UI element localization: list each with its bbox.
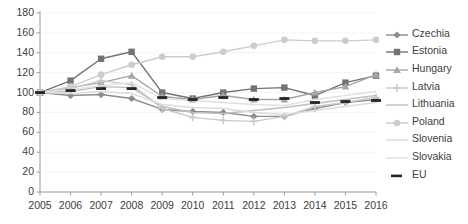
y-tick-label: 140	[16, 46, 34, 58]
legend-swatch-slovenia-icon	[386, 132, 408, 144]
legend-item-eu[interactable]: EU	[386, 165, 468, 183]
legend-label: Hungary	[408, 62, 452, 74]
y-tick-label: 80	[22, 105, 34, 117]
legend-swatch-slovakia-icon	[386, 150, 408, 162]
line-chart: 020406080100120140160180 200520062007200…	[0, 0, 468, 224]
legend-item-slovenia[interactable]: Slovenia	[386, 130, 468, 148]
legend-label: Lithuania	[408, 97, 455, 109]
series-estonia	[37, 49, 379, 102]
legend-item-lithuania[interactable]: Lithuania	[386, 94, 468, 112]
y-tick-label: 180	[16, 6, 34, 18]
legend-label: Czechia	[408, 27, 450, 39]
legend-label: Slovakia	[408, 150, 452, 162]
legend-item-estonia[interactable]: Estonia	[386, 42, 468, 60]
legend-label: Poland	[408, 115, 445, 127]
legend-swatch-hungary-icon	[386, 62, 408, 74]
legend-label: Estonia	[408, 44, 447, 56]
legend-item-latvia[interactable]: Latvia	[386, 77, 468, 95]
legend-swatch-lithuania-icon	[386, 97, 408, 109]
legend-label: Slovenia	[408, 132, 452, 144]
legend-swatch-eu-icon	[386, 168, 408, 180]
y-tick-label: 60	[22, 125, 34, 137]
legend-swatch-czechia-icon	[386, 27, 408, 39]
chart-legend: CzechiaEstoniaHungaryLatviaLithuaniaPola…	[386, 24, 468, 182]
chart-canvas	[0, 0, 384, 224]
legend-item-slovakia[interactable]: Slovakia	[386, 147, 468, 165]
legend-swatch-latvia-icon	[386, 80, 408, 92]
legend-label: EU	[408, 168, 427, 180]
legend-swatch-estonia-icon	[386, 44, 408, 56]
y-tick-label: 0	[28, 185, 34, 197]
y-tick-label: 160	[16, 26, 34, 38]
y-tick-label: 40	[22, 145, 34, 157]
y-tick-label: 20	[22, 165, 34, 177]
legend-item-hungary[interactable]: Hungary	[386, 59, 468, 77]
axis-lines	[37, 11, 377, 196]
y-tick-label: 120	[16, 66, 34, 78]
legend-label: Latvia	[408, 80, 440, 92]
legend-item-czechia[interactable]: Czechia	[386, 24, 468, 42]
y-tick-label: 100	[16, 86, 34, 98]
legend-item-poland[interactable]: Poland	[386, 112, 468, 130]
plot-area: 020406080100120140160180 200520062007200…	[0, 0, 384, 224]
x-tick-label: 2016	[356, 199, 396, 211]
legend-swatch-poland-icon	[386, 115, 408, 127]
